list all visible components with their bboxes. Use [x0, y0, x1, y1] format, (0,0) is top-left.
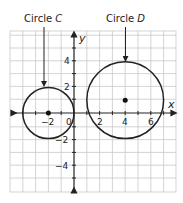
- x-tick-2: 2: [97, 117, 103, 127]
- x-tick-6: 6: [148, 117, 154, 127]
- x-tick-4: 4: [122, 117, 128, 127]
- circle-c-label: Circle C: [24, 13, 62, 24]
- y-tick--4: −4: [55, 161, 69, 171]
- circle-c-center: [46, 111, 51, 116]
- x-tick--2: −2: [41, 117, 54, 127]
- y-tick-2: 2: [64, 82, 70, 92]
- y-axis-label: y: [78, 32, 86, 45]
- y-tick--2: −2: [55, 135, 68, 145]
- x-axis-label: x: [167, 98, 175, 111]
- circle-d-label: Circle D: [106, 13, 145, 24]
- coordinate-diagram: Circle C Circle D y x −2 0 2 4 6 4 2 −2 …: [0, 0, 183, 203]
- y-tick-4: 4: [64, 56, 70, 66]
- x-tick-0: 0: [66, 117, 72, 127]
- circle-d-center: [123, 98, 128, 103]
- axes: [14, 34, 174, 190]
